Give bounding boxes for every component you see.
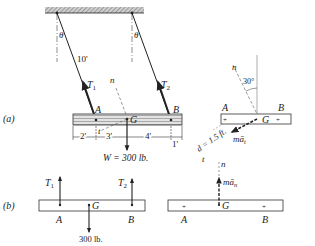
part-b-label: (b) xyxy=(3,200,15,212)
dim-2ft: 2' xyxy=(80,131,87,141)
dynamics-figure: θ θ 10' T1 T2 n A B G t W = 300 lb. 2' 3… xyxy=(0,0,315,246)
kinetic-b-marker-b: + xyxy=(262,203,266,211)
kinetic-b-normal-axis-label: n xyxy=(221,159,226,169)
weight-label: W = 300 lb. xyxy=(103,153,148,163)
marker-a-kinetic: + xyxy=(223,116,227,124)
point-b-label: B xyxy=(173,104,179,115)
point-b-kinetic-label: B xyxy=(278,102,284,113)
normal-axis-line xyxy=(116,88,127,117)
angle-arc xyxy=(246,88,257,91)
normal-axis-label: n xyxy=(110,75,115,85)
kinetic-b-point-a-label: A xyxy=(180,214,188,225)
normal-axis-kinetic-label: n xyxy=(232,62,237,72)
tension-1-label: T1 xyxy=(87,79,97,92)
tangent-axis-kinetic-label: t xyxy=(202,154,205,164)
point-a-marker xyxy=(95,119,98,122)
marker-b-kinetic: + xyxy=(276,116,280,124)
theta-right-label: θ xyxy=(134,30,139,40)
point-a-label: A xyxy=(94,104,102,115)
inertia-t-label: māt xyxy=(233,134,246,145)
fbd-weight-label: 300 lb. xyxy=(79,234,103,244)
fbd-point-b-marker xyxy=(131,204,133,206)
distance-label: d = 1.5 ft. xyxy=(194,126,227,154)
point-g-label: G xyxy=(130,114,137,125)
point-g-kinetic-label: G xyxy=(262,114,269,125)
fbd-point-a-marker xyxy=(59,204,61,206)
tension-2-label: T2 xyxy=(161,79,171,92)
kinetic-b-point-g-label: G xyxy=(222,200,229,211)
point-a-kinetic-label: A xyxy=(221,102,229,113)
fbd-tension-2-label: T2 xyxy=(118,177,128,190)
theta-left-label: θ xyxy=(59,30,64,40)
part-a-label: (a) xyxy=(3,113,15,125)
dim-1ft: 1' xyxy=(172,139,179,149)
ceiling-support xyxy=(45,7,144,13)
fbd-point-a-label: A xyxy=(55,214,63,225)
cable-length-label: 10' xyxy=(77,54,88,64)
figure-canvas: θ θ 10' T1 T2 n A B G t W = 300 lb. 2' 3… xyxy=(0,0,315,246)
dim-4ft: 4' xyxy=(145,131,152,141)
kinetic-b-point-g-marker xyxy=(218,204,220,206)
tangent-axis-label: t xyxy=(98,126,101,136)
dim-3ft: 3' xyxy=(106,131,113,141)
kinetic-b-point-b-label: B xyxy=(262,214,268,225)
inertia-n-label: mān xyxy=(223,177,237,188)
angle-label: 30° xyxy=(243,77,254,86)
fbd-point-b-label: B xyxy=(128,214,134,225)
kinetic-b-marker-a: + xyxy=(182,203,186,211)
fbd-tension-1-label: T1 xyxy=(45,177,55,190)
pivot-right xyxy=(131,12,134,15)
pivot-left xyxy=(56,12,59,15)
normal-axis-kinetic-line xyxy=(233,65,257,114)
point-b-marker xyxy=(170,119,173,122)
fbd-point-g-label: G xyxy=(92,200,99,211)
